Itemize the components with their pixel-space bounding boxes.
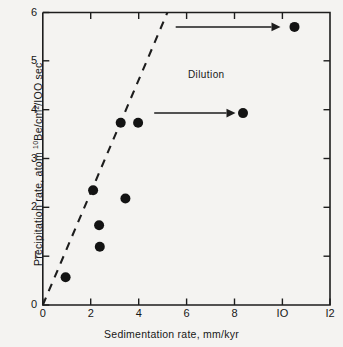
plot-border: [43, 13, 330, 306]
dilution-reference-line: [43, 13, 168, 306]
data-point: [94, 220, 104, 230]
y-axis-label-superscript: 10: [32, 141, 39, 149]
axes-frame: [43, 13, 330, 306]
y-tick-label: 6: [17, 7, 37, 18]
x-tick-label: 8: [225, 308, 245, 319]
data-point: [61, 272, 71, 282]
y-axis-label-suffix: Be/cm²/IOO sec: [32, 62, 44, 140]
y-tick-marks-right: [324, 61, 331, 256]
dilution-annotation-label: Dilution: [188, 69, 225, 80]
y-axis-label-prefix: Precipitation rate, atom: [32, 149, 44, 266]
x-tick-label: 4: [129, 308, 149, 319]
arrow-lower: [154, 109, 235, 118]
scatter-plot-canvas: [0, 0, 343, 347]
x-tick-label: IO: [272, 308, 292, 319]
data-point: [95, 242, 105, 252]
x-tick-label: 2: [81, 308, 101, 319]
data-point: [133, 118, 143, 128]
data-point: [290, 22, 300, 32]
x-tick-marks: [43, 299, 330, 306]
data-point: [238, 108, 248, 118]
data-point: [120, 194, 130, 204]
x-tick-label: I2: [320, 308, 340, 319]
arrow-upper: [176, 23, 281, 32]
data-point: [88, 185, 98, 195]
figure-container: 0 2 4 6 8 IO I2 0 I 2 3 4 5 6 Precipitat…: [0, 0, 343, 347]
x-tick-label: 6: [177, 308, 197, 319]
y-axis-label: Precipitation rate, atom 10Be/cm²/IOO se…: [32, 34, 45, 294]
x-tick-marks-top: [91, 13, 283, 20]
y-tick-label: 0: [17, 299, 37, 310]
data-points: [61, 22, 300, 282]
x-axis-label: Sedimentation rate, mm/kyr: [0, 328, 343, 340]
data-point: [116, 118, 126, 128]
